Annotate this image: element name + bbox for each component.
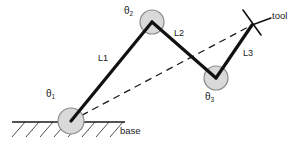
base-label: base xyxy=(120,126,141,136)
link-label-l1: L1 xyxy=(98,54,108,63)
joint-label-theta1: θ1 xyxy=(46,89,55,99)
joint-label-theta3: θ3 xyxy=(205,92,214,102)
arm-graphic xyxy=(0,0,301,147)
link-label-l3: L3 xyxy=(243,49,253,58)
link-label-l2: L2 xyxy=(174,29,184,38)
tool-tip-lead-line xyxy=(252,18,271,25)
robot-arm-diagram: θ1 θ2 θ3 L1 L2 L3 base tool xyxy=(0,0,301,147)
joint-label-theta2: θ2 xyxy=(124,6,133,16)
tool-label: tool xyxy=(272,11,287,21)
link-1-segment xyxy=(71,22,152,121)
